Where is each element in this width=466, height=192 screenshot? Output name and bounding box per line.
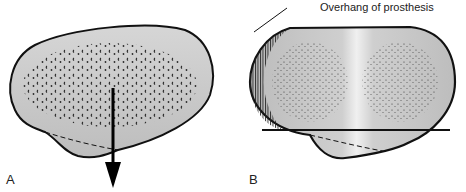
panel-label-b: B [249,172,258,187]
lateral-condyle-stipple [362,42,438,122]
callout-leader-line [254,8,287,32]
panel-b-prosthesis [250,27,455,158]
panel-label-a: A [6,172,15,187]
medial-condyle-stipple [272,42,348,122]
figure-canvas [0,0,466,192]
overhang-callout-text: Overhang of prosthesis [320,1,434,13]
cancellous-bone-texture [23,43,197,127]
